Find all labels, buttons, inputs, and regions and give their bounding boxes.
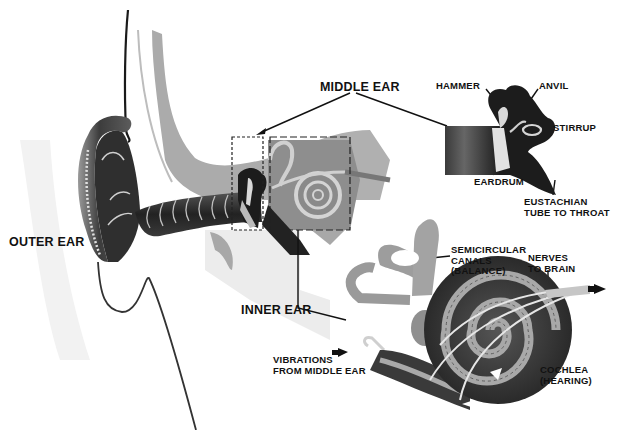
label-stirrup: STIRRUP [553,123,596,134]
label-cochlea: COCHLEA (HEARING) [540,365,592,386]
label-inner-ear: INNER EAR [241,303,312,317]
label-anvil: ANVIL [539,81,569,92]
label-eustachian-tube: EUSTACHIAN TUBE TO THROAT [524,197,610,218]
label-vibrations: VIBRATIONS FROM MIDDLE EAR [273,355,366,376]
label-nerves-to-brain: NERVES TO BRAIN [528,253,575,274]
label-outer-ear: OUTER EAR [9,235,84,249]
label-eardrum: EARDRUM [474,177,524,188]
ear-anatomy-diagram: OUTER EAR MIDDLE EAR INNER EAR HAMMER AN… [0,0,626,430]
label-hammer: HAMMER [436,81,480,92]
arrowhead [256,128,266,135]
label-semicircular-canals: SEMICIRCULAR CANALS (BALANCE) [451,245,526,277]
outer-ear-illustration [78,116,140,262]
label-middle-ear: MIDDLE EAR [320,80,400,94]
